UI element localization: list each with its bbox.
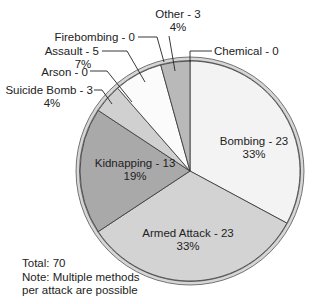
chart-footnote: Total: 70 Note: Multiple methods per att… [22,257,140,298]
label-kidnapping-pct: 19% [123,170,146,182]
label-kidnapping: Kidnapping - 13 [95,157,176,169]
label-suicide-bomb: Suicide Bomb - 3 [5,84,93,96]
label-bombing-pct: 33% [242,148,265,160]
total-note: Total: 70 [22,257,140,271]
multiple-methods-note-cont: per attack are possible [22,284,140,298]
label-other: Other - 3 [155,8,200,20]
label-other-pct: 4% [170,21,187,33]
label-firebombing: Firebombing - 0 [54,31,135,43]
label-assault: Assault - 5 [45,45,99,57]
label-armed-attack-pct: 33% [176,240,199,252]
leader-line-firebombing [138,37,164,62]
multiple-methods-note: Note: Multiple methods [22,271,140,285]
label-arson: Arson - 0 [41,66,88,78]
label-bombing: Bombing - 23 [220,135,288,147]
label-suicide-bomb-pct: 4% [44,97,61,109]
label-armed-attack: Armed Attack - 23 [142,227,233,239]
label-chemical: Chemical - 0 [214,45,279,57]
